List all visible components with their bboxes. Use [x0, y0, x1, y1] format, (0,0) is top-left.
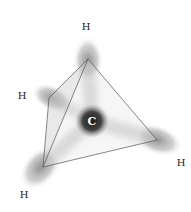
diagram-canvas	[0, 0, 191, 212]
methane-tetrahedral-diagram: C H H H H	[0, 0, 191, 212]
hydrogen-label-right: H	[177, 158, 186, 168]
hydrogen-label-bottom-left: H	[20, 190, 29, 200]
hydrogen-label-left: H	[18, 91, 27, 101]
carbon-label: C	[88, 116, 97, 127]
hydrogen-label-top: H	[82, 22, 91, 32]
